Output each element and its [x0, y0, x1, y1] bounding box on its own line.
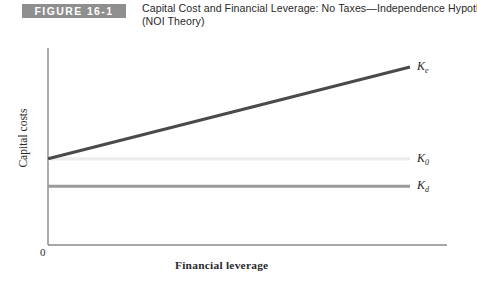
figure-title: Capital Cost and Financial Leverage: No …	[142, 2, 472, 28]
figure-page: FIGURE 16-1 Capital Cost and Financial L…	[0, 0, 477, 287]
series-label-ke-text: K	[417, 59, 425, 73]
figure-title-line-1: Capital Cost and Financial Leverage: No …	[142, 2, 472, 15]
origin-label: 0	[40, 246, 46, 258]
series-label-ke-sub: e	[425, 66, 429, 75]
figure-title-line-2: (NOI Theory)	[142, 15, 472, 28]
series-label-ke: Ke	[417, 59, 429, 75]
figure-number-badge: FIGURE 16-1	[22, 4, 126, 18]
series-label-k0-sub: 0	[425, 158, 429, 167]
chart-canvas	[0, 40, 477, 287]
series-line-ke	[48, 67, 410, 159]
series-label-kd: Kd	[417, 178, 429, 194]
x-axis-label: Financial leverage	[175, 259, 268, 271]
series-label-k0-text: K	[417, 151, 425, 165]
chart-area: Capital costs Financial leverage 0 Ke K0…	[0, 40, 477, 287]
series-label-kd-sub: d	[425, 186, 429, 195]
series-label-kd-text: K	[417, 178, 425, 192]
y-axis-label: Capital costs	[17, 93, 29, 183]
series-label-k0: K0	[417, 151, 429, 167]
